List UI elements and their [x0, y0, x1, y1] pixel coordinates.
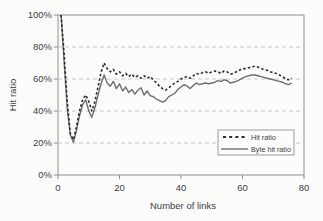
y-axis-tick-label: 40%	[33, 105, 53, 116]
legend-label-byte-hit-ratio: Byte hit ratio	[251, 145, 291, 154]
x-axis-title: Number of links	[150, 200, 216, 211]
y-axis-tick-label: 60%	[33, 73, 53, 84]
x-axis-tick-label: 80	[299, 182, 310, 193]
y-axis-tick-label: 0%	[38, 169, 52, 180]
x-axis-tick-label: 60	[237, 182, 248, 193]
gridlines	[58, 47, 304, 143]
x-axis-tick-label: 40	[176, 182, 187, 193]
y-axis-tick-label: 80%	[33, 41, 53, 52]
hit-ratio-chart: 0%20%40%60%80%100%020406080 Number of li…	[0, 0, 323, 221]
y-axis-title: Hit ratio	[7, 79, 18, 112]
hit-ratio-line	[61, 15, 292, 140]
y-axis-tick-label: 100%	[28, 9, 53, 20]
legend: Hit ratio Byte hit ratio	[218, 130, 294, 155]
axis-ticks: 0%20%40%60%80%100%020406080	[28, 9, 310, 193]
legend-label-hit-ratio: Hit ratio	[251, 133, 276, 142]
y-axis-tick-label: 20%	[33, 137, 53, 148]
x-axis-tick-label: 0	[55, 182, 60, 193]
chart-figure: 0%20%40%60%80%100%020406080 Number of li…	[0, 0, 323, 221]
x-axis-tick-label: 20	[114, 182, 125, 193]
